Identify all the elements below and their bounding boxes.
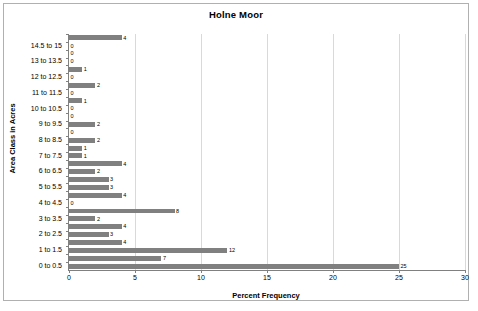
y-tick-label: 8 to 8.5 [4, 136, 62, 143]
x-tick [69, 270, 70, 273]
bar-value-label: 12 [229, 247, 235, 253]
y-tick-label: 10 to 10.5 [4, 105, 62, 112]
y-tick [66, 50, 69, 51]
x-tick [333, 270, 334, 273]
y-tick [66, 42, 69, 43]
bar-value-label: 25 [401, 263, 407, 269]
bar [69, 224, 122, 229]
bar [69, 264, 399, 269]
x-gridline [399, 34, 400, 270]
y-tick [66, 262, 69, 263]
bar [69, 193, 122, 198]
bar-value-label: 0 [71, 105, 74, 111]
y-tick-label: 4 to 4.5 [4, 199, 62, 206]
y-tick [66, 254, 69, 255]
y-tick [66, 191, 69, 192]
y-tick [66, 231, 69, 232]
y-tick [66, 65, 69, 66]
bar-value-label: 4 [123, 192, 126, 198]
bar-value-label: 0 [71, 90, 74, 96]
bar-value-label: 7 [163, 255, 166, 261]
bar-value-label: 0 [71, 113, 74, 119]
y-tick [66, 105, 69, 106]
y-tick [66, 136, 69, 137]
y-tick-label: 5 to 5.5 [4, 183, 62, 190]
bar-value-label: 1 [84, 145, 87, 151]
x-tick-label: 30 [453, 274, 477, 281]
bar-value-label: 1 [84, 153, 87, 159]
y-tick [66, 128, 69, 129]
bar-value-label: 2 [97, 121, 100, 127]
bar [69, 177, 109, 182]
bar-value-label: 2 [97, 137, 100, 143]
bar-value-label: 1 [84, 66, 87, 72]
bar-value-label: 1 [84, 98, 87, 104]
y-tick-label: 1 to 1.5 [4, 246, 62, 253]
bar [69, 122, 95, 127]
x-tick-label: 15 [255, 274, 279, 281]
x-gridline [333, 34, 334, 270]
bar [69, 98, 82, 103]
y-tick [66, 89, 69, 90]
bar-value-label: 2 [97, 168, 100, 174]
y-tick [66, 183, 69, 184]
x-gridline [267, 34, 268, 270]
y-tick [66, 176, 69, 177]
x-tick-label: 10 [189, 274, 213, 281]
y-tick [66, 199, 69, 200]
y-tick-label: 2 to 2.5 [4, 230, 62, 237]
y-tick [66, 121, 69, 122]
y-tick [66, 207, 69, 208]
bar [69, 185, 109, 190]
x-tick [267, 270, 268, 273]
bar [69, 216, 95, 221]
bar [69, 146, 82, 151]
y-tick-label: 14.5 to 15 [4, 42, 62, 49]
bar [69, 138, 95, 143]
x-tick [135, 270, 136, 273]
x-tick [201, 270, 202, 273]
bar-value-label: 0 [71, 50, 74, 56]
y-tick-label: 0 to 0.5 [4, 262, 62, 269]
bar [69, 248, 227, 253]
bar [69, 67, 82, 72]
y-tick [66, 34, 69, 35]
x-gridline [465, 34, 466, 270]
bar-value-label: 0 [71, 129, 74, 135]
y-tick [66, 160, 69, 161]
bar-value-label: 0 [71, 43, 74, 49]
x-tick-label: 5 [123, 274, 147, 281]
bar [69, 240, 122, 245]
bar-value-label: 3 [110, 184, 113, 190]
bar-value-label: 0 [71, 200, 74, 206]
y-tick-label: 13 to 13.5 [4, 57, 62, 64]
x-gridline [135, 34, 136, 270]
bar-value-label: 4 [123, 35, 126, 41]
y-tick [66, 152, 69, 153]
bar-value-label: 4 [123, 239, 126, 245]
bar-value-label: 2 [97, 216, 100, 222]
bar [69, 169, 95, 174]
y-tick-label: 6 to 6.5 [4, 167, 62, 174]
chart-container: Holne Moor 05101520253025712434280433241… [3, 3, 469, 301]
bar [69, 35, 122, 40]
x-tick [399, 270, 400, 273]
x-tick-label: 0 [57, 274, 81, 281]
x-gridline [201, 34, 202, 270]
x-axis-title: Percent Frequency [68, 291, 464, 300]
bar [69, 209, 175, 214]
bar-value-label: 2 [97, 82, 100, 88]
bar [69, 161, 122, 166]
y-tick-label: 11 to 11.5 [4, 89, 62, 96]
y-tick [66, 81, 69, 82]
y-tick [66, 215, 69, 216]
x-tick [465, 270, 466, 273]
y-tick [66, 168, 69, 169]
y-tick [66, 97, 69, 98]
y-tick [66, 113, 69, 114]
y-tick-label: 3 to 3.5 [4, 215, 62, 222]
y-tick-label: 12 to 12.5 [4, 73, 62, 80]
chart-title: Holne Moor [4, 9, 468, 20]
plot-area: 0510152025302571243428043324112020010201… [68, 34, 465, 271]
bar-value-label: 3 [110, 176, 113, 182]
